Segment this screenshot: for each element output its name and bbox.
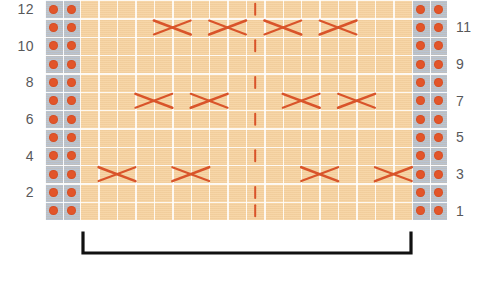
row-number-9: 9 xyxy=(456,55,464,73)
row-number-12: 12 xyxy=(17,0,34,18)
row-number-7: 7 xyxy=(456,92,464,110)
row-number-8: 8 xyxy=(26,73,34,91)
row-number-1: 1 xyxy=(456,202,464,220)
row-number-4: 4 xyxy=(26,147,34,165)
chart-grid xyxy=(45,0,447,220)
row-numbers-left: 12 10 8 6 4 2 xyxy=(0,0,40,225)
row-numbers-right: 11 9 7 5 3 1 xyxy=(448,0,488,225)
row-number-5: 5 xyxy=(456,128,464,146)
row-number-3: 3 xyxy=(456,165,464,183)
knitting-chart: 12 10 8 6 4 2 11 9 7 5 3 1 xyxy=(0,0,488,291)
row-number-10: 10 xyxy=(17,37,34,55)
pattern-repeat-bracket xyxy=(0,225,488,270)
cable-symbols-layer xyxy=(45,0,447,220)
row-number-2: 2 xyxy=(26,183,34,201)
row-number-6: 6 xyxy=(26,110,34,128)
row-number-11: 11 xyxy=(456,18,472,36)
repeat-bracket-area xyxy=(0,225,488,270)
